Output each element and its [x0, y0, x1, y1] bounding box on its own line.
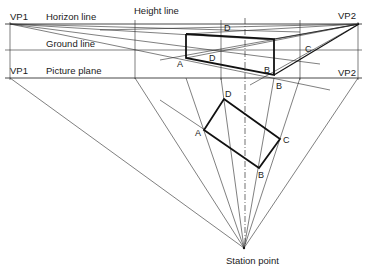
vp1-bottom-label: VP1: [10, 65, 28, 76]
vp1-ray-1: [10, 24, 300, 32]
station-point-label: Station point: [226, 255, 279, 266]
ground-line-label: Ground line: [46, 38, 95, 49]
sp-ray-d: [221, 78, 244, 248]
point-b-picture-plane-label: B: [276, 81, 282, 91]
vp2-top-label: VP2: [338, 10, 356, 21]
station-point-marker: [243, 247, 245, 249]
sp-ray-b: [244, 78, 274, 248]
sp-ray-height: [135, 78, 244, 248]
plan-point-b-label: B: [258, 170, 264, 180]
two-point-perspective-diagram: VP1 Horizon line Height line VP2 Ground …: [0, 0, 368, 272]
vp2-bottom-label: VP2: [338, 67, 356, 78]
point-d-top-label: D: [224, 23, 231, 33]
point-c-perspective-label: C: [305, 44, 312, 54]
sp-ray-a: [186, 78, 244, 248]
horizon-line-label: Horizon line: [46, 11, 96, 22]
point-d-perspective-label: D: [209, 53, 216, 63]
sp-ray-vp2: [244, 78, 358, 248]
sp-ray-vp1: [10, 78, 244, 248]
vp1-top-label: VP1: [10, 11, 28, 22]
plan-point-c-label: C: [283, 135, 290, 145]
picture-plane-label: Picture plane: [46, 65, 101, 76]
perspective-box-outline: [186, 34, 274, 75]
plan-extension-line: [160, 100, 205, 130]
point-a-perspective-label: A: [177, 59, 183, 69]
plan-point-d-label: D: [225, 89, 232, 99]
point-b-perspective-label: B: [264, 65, 270, 75]
height-line-label: Height line: [134, 5, 179, 16]
plan-point-a-label: A: [195, 128, 201, 138]
